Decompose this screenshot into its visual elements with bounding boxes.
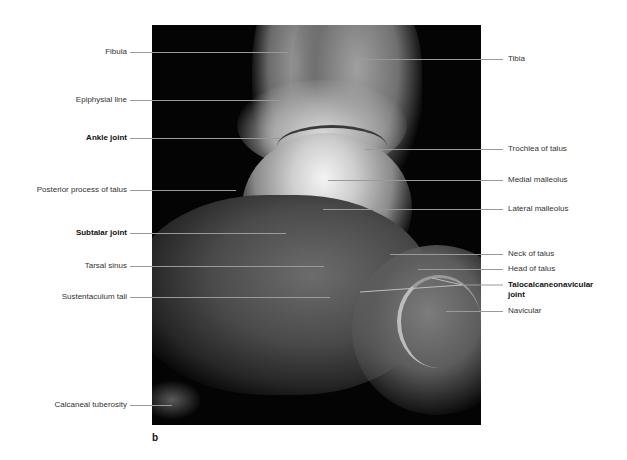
label-tibia: Tibia bbox=[508, 54, 525, 64]
leader-navicular bbox=[446, 311, 503, 312]
label-talocalcaneonavicular-line1: Talocalcaneonavicular bbox=[508, 280, 593, 290]
leader-ankle-joint bbox=[130, 138, 280, 139]
label-sustentaculum-tali: Sustentaculum tali bbox=[62, 292, 127, 302]
label-epiphysial-line: Epiphysial line bbox=[76, 95, 127, 105]
label-subtalar-joint: Subtalar joint bbox=[76, 228, 127, 238]
label-ankle-joint: Ankle joint bbox=[86, 133, 127, 143]
label-calcaneal-tuberosity: Calcaneal tuberosity bbox=[55, 400, 127, 410]
label-navicular: Navicular bbox=[508, 306, 541, 316]
leader-fibula bbox=[130, 52, 288, 53]
leader-neck-of-talus bbox=[390, 254, 503, 255]
leader-subtalar-joint bbox=[130, 233, 286, 234]
leader-sustentaculum-tali bbox=[130, 297, 330, 298]
leader-tibia bbox=[357, 59, 503, 60]
label-trochlea-of-talus: Trochlea of talus bbox=[508, 144, 567, 154]
heel-soft-tissue bbox=[152, 380, 202, 420]
label-neck-of-talus: Neck of talus bbox=[508, 249, 554, 259]
label-posterior-process: Posterior process of talus bbox=[37, 185, 127, 195]
leader-tarsal-sinus bbox=[130, 266, 324, 267]
leader-trochlea bbox=[365, 149, 503, 150]
label-lateral-malleolus: Lateral malleolus bbox=[508, 204, 568, 214]
leader-calcaneal-tuberosity bbox=[130, 405, 172, 406]
xray-image bbox=[152, 25, 481, 425]
leader-medial-malleolus bbox=[328, 180, 503, 181]
leader-head-of-talus bbox=[418, 269, 503, 270]
label-tarsal-sinus: Tarsal sinus bbox=[85, 261, 127, 271]
label-talocalcaneonavicular-joint: Talocalcaneonavicular joint bbox=[508, 280, 593, 300]
label-talocalcaneonavicular-line2: joint bbox=[508, 290, 593, 300]
leader-posterior-process bbox=[130, 190, 236, 191]
label-head-of-talus: Head of talus bbox=[508, 264, 555, 274]
talar-head-arc bbox=[397, 275, 481, 368]
leader-lateral-malleolus bbox=[323, 209, 503, 210]
label-medial-malleolus: Medial malleolus bbox=[508, 175, 568, 185]
label-fibula: Fibula bbox=[105, 47, 127, 57]
panel-letter: b bbox=[152, 432, 158, 443]
leader-epiphysial-line bbox=[130, 100, 282, 101]
